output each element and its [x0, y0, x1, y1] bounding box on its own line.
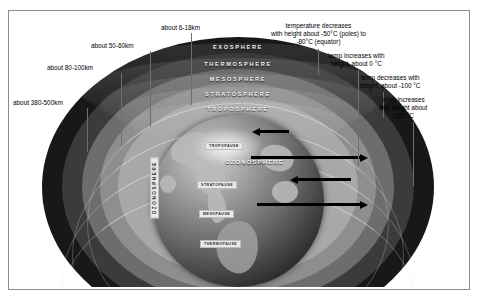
boundary-label-mesopause: MESOPAUSE	[199, 210, 234, 218]
earth-globe	[152, 115, 324, 287]
diagram-frame: EXOSPHERE THERMOSPHERE MESOSPHERE STRATO…	[8, 10, 470, 290]
continent-shape	[272, 181, 298, 203]
callout-line: with height about -50°C (poles) to	[271, 30, 366, 38]
continent-shape	[206, 188, 227, 224]
leader-line	[358, 70, 359, 166]
callout-temp-stratosphere: temperature decreases with height about …	[271, 22, 366, 47]
callout-line: temperature decreases	[271, 22, 366, 30]
callout-line: with height about	[379, 104, 427, 112]
atmosphere-dome: EXOSPHERE THERMOSPHERE MESOSPHERE STRATO…	[9, 11, 467, 287]
callout-line: temp increases	[379, 96, 427, 104]
callout-altitude-exosphere: about 380-500km	[13, 99, 63, 107]
arrow-1	[259, 130, 289, 133]
callout-temp-mesosphere: temp increases with height, about 0 °C	[328, 52, 384, 68]
layer-label-mesosphere: MESOSPHERE	[210, 76, 266, 82]
leader-line	[121, 73, 122, 145]
ozonosphere-label: OZONOSPHERE	[225, 159, 284, 165]
diagram-canvas: EXOSPHERE THERMOSPHERE MESOSPHERE STRATO…	[0, 0, 481, 301]
boundary-label-thermopause: THERMOPAUSE	[200, 240, 241, 248]
callout-temp-exosphere: temp increases with height about 1500°C	[379, 96, 427, 121]
ozonosphere-vertical-label: OZONOSPHERE	[150, 157, 159, 218]
boundary-label-stratopause: STRATOPAUSE	[197, 181, 237, 189]
callout-line: height, about 0 °C	[328, 60, 384, 68]
leader-line	[413, 122, 414, 186]
callout-altitude-stratosphere: about 6-18km	[161, 24, 200, 32]
boundary-label-tropopause: TROPOPAUSE	[205, 142, 243, 150]
leader-line	[318, 49, 319, 75]
callout-line: 1500°C	[379, 112, 427, 120]
arrow-4	[257, 203, 361, 206]
callout-line: temp increases with	[328, 52, 384, 60]
arrow-2	[251, 156, 361, 159]
layer-label-stratosphere: STRATOSPHERE	[205, 91, 271, 97]
callout-altitude-mesosphere: about 50-60km	[91, 42, 134, 50]
layer-label-troposphere: TROPOSPHERE	[207, 106, 269, 112]
leader-line	[150, 51, 151, 127]
leader-line	[87, 108, 88, 152]
continent-shape	[160, 175, 176, 193]
layer-label-exosphere: EXOSPHERE	[213, 44, 263, 50]
arrow-3	[297, 178, 351, 181]
callout-line: -80°C (equator)	[271, 38, 366, 46]
callout-altitude-thermosphere: about 80-100km	[47, 64, 93, 72]
callout-temp-thermosphere: temp decreases with height, about -100 °…	[360, 74, 420, 90]
leader-line	[191, 33, 192, 105]
layer-label-thermosphere: THERMOSPHERE	[204, 61, 272, 67]
callout-line: height, about -100 °C	[360, 82, 420, 90]
callout-line: temp decreases with	[360, 74, 420, 82]
